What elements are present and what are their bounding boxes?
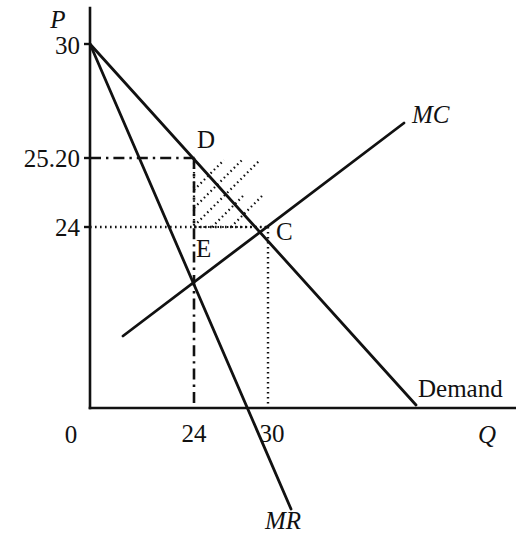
y-axis-label: P xyxy=(49,6,65,33)
economics-diagram: P Q 0 30 25.20 24 24 30 D E C MC MR Dema… xyxy=(0,0,516,544)
point-label-E: E xyxy=(196,235,211,262)
demand-curve xyxy=(90,44,416,405)
x-axis-label: Q xyxy=(478,421,496,448)
mc-curve xyxy=(123,123,404,336)
y-tick-label-30: 30 xyxy=(55,32,80,59)
point-label-C: C xyxy=(276,218,293,245)
mr-curve-label: MR xyxy=(264,507,301,534)
mc-curve-label: MC xyxy=(411,101,450,128)
y-tick-label-24: 24 xyxy=(55,214,81,241)
y-tick-label-25-20: 25.20 xyxy=(24,145,80,172)
point-label-D: D xyxy=(197,126,215,153)
origin-label: 0 xyxy=(65,421,78,448)
x-tick-label-30: 30 xyxy=(260,420,285,447)
x-tick-label-24: 24 xyxy=(182,420,208,447)
demand-curve-label: Demand xyxy=(418,375,503,402)
chart-canvas: P Q 0 30 25.20 24 24 30 D E C MC MR Dema… xyxy=(0,0,516,544)
